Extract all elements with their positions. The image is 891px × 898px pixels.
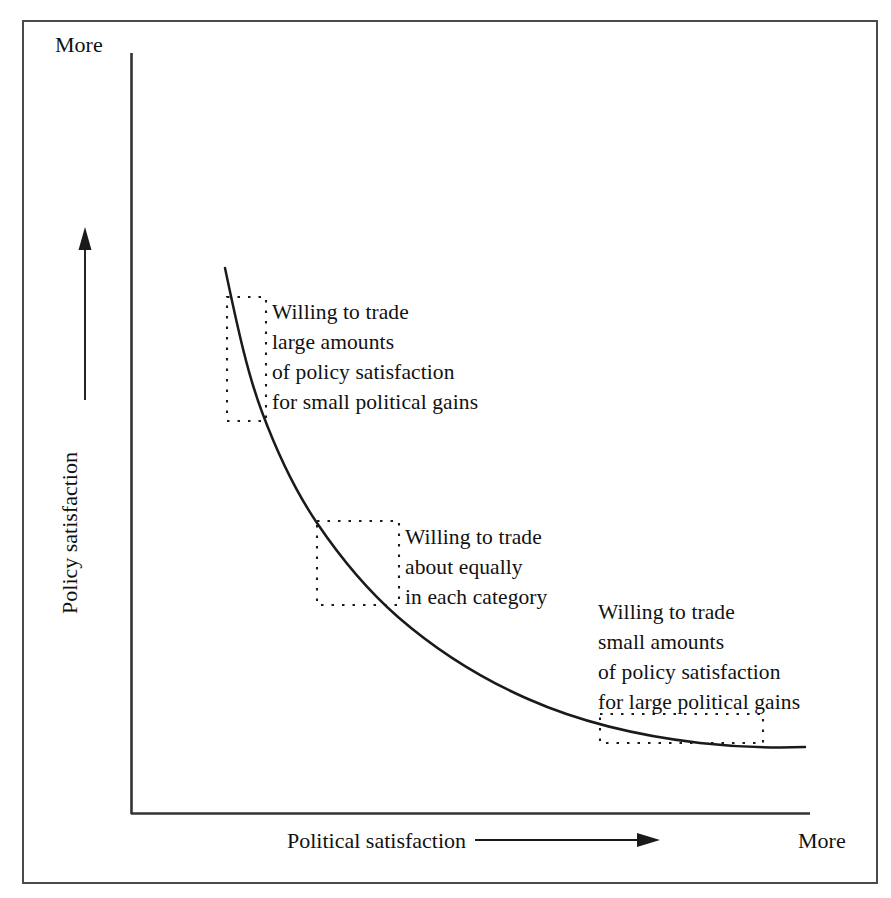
annotation-line: small amounts: [598, 627, 800, 657]
annotation-box-balanced-tradeoff: [317, 521, 399, 605]
y-axis-arrow: [79, 227, 92, 400]
y-axis-more-label: More: [55, 32, 103, 58]
figure-canvas: More Policy satisfaction Political satis…: [0, 0, 891, 898]
x-axis-title: Political satisfaction: [287, 828, 466, 854]
annotation-line: for small political gains: [272, 387, 478, 417]
annotation-line: about equally: [405, 552, 547, 582]
annotation-text-balanced-tradeoff: Willing to trade about equally in each c…: [405, 522, 547, 612]
annotation-box-low-policy-high-political: [600, 714, 763, 743]
annotation-line: Willing to trade: [272, 297, 478, 327]
annotation-line: in each category: [405, 582, 547, 612]
plot-graphics: [0, 0, 891, 898]
annotation-text-high-policy-low-political: Willing to trade large amounts of policy…: [272, 297, 478, 417]
annotation-line: of policy satisfaction: [598, 657, 800, 687]
annotation-text-low-policy-high-political: Willing to trade small amounts of policy…: [598, 597, 800, 717]
annotation-line: Willing to trade: [598, 597, 800, 627]
annotation-line: of policy satisfaction: [272, 357, 478, 387]
annotation-line: for large political gains: [598, 687, 800, 717]
x-axis-more-label: More: [798, 828, 846, 854]
annotation-line: Willing to trade: [405, 522, 547, 552]
y-axis-title: Policy satisfaction: [57, 423, 83, 643]
x-axis-arrow: [475, 833, 660, 847]
annotation-line: large amounts: [272, 327, 478, 357]
